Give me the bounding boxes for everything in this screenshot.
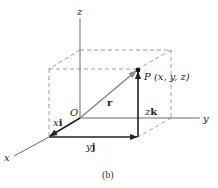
yj-label: yj: [85, 141, 95, 152]
vector-diagram: z y x O P (x, y, z) r xi yj zk (b): [0, 0, 218, 188]
figure-caption: (b): [102, 169, 114, 181]
x-axis-label: x: [4, 152, 10, 163]
z-axis-label: z: [76, 6, 83, 17]
x-axis: [14, 137, 49, 156]
origin-label: O: [70, 107, 78, 118]
xi-label: xi: [53, 117, 63, 128]
position-vector-r: [80, 71, 136, 118]
r-vector-label: r: [107, 97, 113, 108]
point-p-marker: [136, 68, 141, 73]
point-p-label: P (x, y, z): [143, 71, 190, 82]
zk-label: zk: [144, 106, 158, 117]
y-axis-label: y: [202, 113, 209, 124]
axes: [14, 18, 200, 156]
